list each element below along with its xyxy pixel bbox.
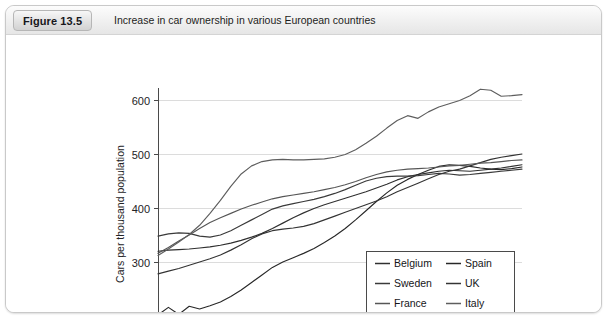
legend-label-sweden: Sweden (394, 277, 432, 289)
legend-label-belgium: Belgium (394, 257, 432, 269)
y-tick-labels: 200300400500600 (132, 95, 150, 314)
grid-layer (158, 101, 522, 263)
figure-header: Figure 13.5 Increase in car ownership in… (6, 6, 601, 35)
figure-body: 200300400500600 198019851990199520002005… (6, 35, 601, 313)
y-tick-label: 300 (132, 257, 150, 269)
chart-legend[interactable]: BelgiumSpainSwedenUKFranceItaly (367, 252, 515, 314)
figure-caption: Increase in car ownership in various Eur… (114, 6, 375, 34)
series-line-italy (158, 89, 522, 255)
series-line-france (158, 160, 522, 253)
figure-number-badge: Figure 13.5 (13, 10, 92, 31)
legend-label-spain: Spain (465, 257, 492, 269)
figure-card: Figure 13.5 Increase in car ownership in… (5, 5, 602, 313)
series-line-sweden (158, 169, 522, 237)
line-chart: 200300400500600 198019851990199520002005… (6, 35, 601, 313)
legend-label-uk: UK (465, 277, 480, 289)
y-axis-title: Cars per thousand population (114, 145, 126, 283)
y-axis-title-text: Cars per thousand population (114, 145, 126, 283)
y-tick-label: 600 (132, 95, 150, 107)
y-tick-label: 400 (132, 203, 150, 215)
legend-label-italy: Italy (465, 297, 485, 309)
y-tick-label: 200 (132, 311, 150, 314)
legend-label-france: France (394, 297, 427, 309)
y-tick-label: 500 (132, 149, 150, 161)
